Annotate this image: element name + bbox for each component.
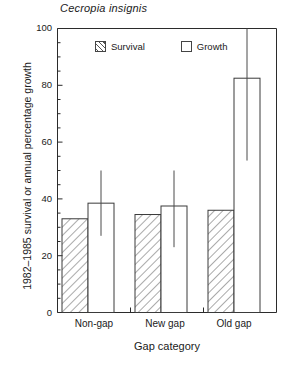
- y-tick-label: 100: [26, 23, 52, 33]
- y-tick-label: 60: [26, 137, 52, 147]
- figure: Cecropia insignis 1982–1985 survival or …: [0, 0, 296, 368]
- chart-canvas: [57, 28, 277, 313]
- bar-non-gap-survival: [62, 219, 88, 313]
- y-tick-label: 20: [26, 251, 52, 261]
- x-tick-label-new-gap: New gap: [130, 318, 200, 329]
- y-tick-label: 80: [26, 80, 52, 90]
- x-tick-label-old-gap: Old gap: [199, 318, 269, 329]
- bar-old-gap-survival: [208, 210, 234, 312]
- x-axis-title: Gap category: [57, 340, 277, 352]
- page-title: Cecropia insignis: [60, 2, 147, 14]
- y-tick-label: 0: [26, 308, 52, 318]
- y-tick-label-group: 100 80 60 40 20 0: [22, 0, 52, 368]
- plot-area: [57, 28, 277, 313]
- y-tick-label: 40: [26, 194, 52, 204]
- bars-layer: [62, 78, 260, 312]
- x-tick-label-non-gap: Non-gap: [59, 318, 129, 329]
- bar-new-gap-survival: [135, 215, 161, 313]
